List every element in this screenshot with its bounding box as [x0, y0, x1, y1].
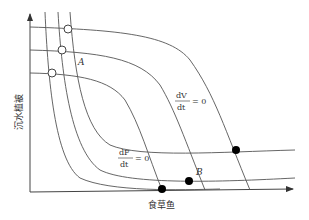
filled-point-b [185, 177, 193, 185]
svg-text:dt: dt [120, 160, 129, 169]
y-axis-label: 沉水植被 [13, 94, 24, 130]
v-isoclines [45, 12, 295, 190]
svg-text:dt: dt [177, 103, 186, 112]
svg-text:dF: dF [119, 148, 130, 157]
svg-text:= 0: = 0 [192, 97, 206, 106]
filled-point-1 [232, 146, 240, 154]
phase-diagram: A B dV dt = 0 dF dt = 0 食草鱼 沉水植被 [0, 0, 309, 220]
open-point-3 [48, 69, 56, 77]
open-point-1 [64, 25, 72, 33]
label-df-dt: dF dt = 0 [118, 148, 149, 169]
filled-point-3 [158, 185, 166, 193]
svg-text:= 0: = 0 [135, 154, 149, 163]
label-a: A [77, 57, 85, 67]
open-point-2 [58, 46, 66, 54]
label-dv-dt: dV dt = 0 [175, 91, 206, 112]
svg-text:dV: dV [176, 91, 187, 100]
x-axis-label: 食草鱼 [148, 199, 175, 210]
f-isocline-mid [30, 50, 205, 190]
label-b: B [195, 167, 203, 177]
